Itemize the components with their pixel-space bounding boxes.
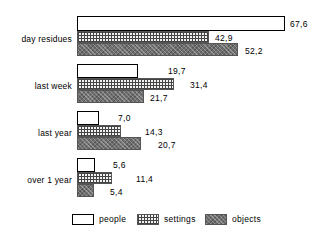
value-label-over-1-year-objects: 5,4 — [110, 187, 123, 197]
bar-day-residues-objects — [77, 43, 238, 56]
bar-day-residues-settings — [77, 31, 209, 43]
bar-last-week-settings — [77, 78, 174, 90]
bar-last-week-objects — [77, 90, 144, 103]
value-label-over-1-year-settings: 11,4 — [136, 174, 153, 184]
category-label-over-1-year: over 1 year — [0, 175, 72, 185]
legend-label-objects: objects — [232, 214, 261, 224]
value-label-day-residues-people: 67,6 — [290, 19, 308, 29]
value-label-last-week-objects: 21,7 — [150, 93, 168, 103]
bar-last-week-people — [77, 64, 138, 78]
bar-day-residues-people — [77, 16, 285, 31]
value-label-over-1-year-people: 5,6 — [113, 160, 126, 170]
legend-swatch-settings-icon — [137, 214, 159, 225]
bar-over-1-year-objects — [77, 184, 94, 197]
value-label-day-residues-objects: 52,2 — [245, 46, 263, 56]
value-label-last-year-settings: 14,3 — [145, 127, 163, 137]
legend-label-settings: settings — [164, 214, 196, 224]
bar-over-1-year-settings — [77, 172, 112, 184]
category-label-last-year: last year — [0, 128, 72, 138]
legend-item-settings: settings — [137, 212, 196, 226]
bar-last-year-settings — [77, 125, 121, 137]
legend-item-objects: objects — [205, 212, 261, 226]
category-label-day-residues: day residues — [0, 34, 72, 44]
legend-item-people: people — [72, 212, 126, 226]
chart-legend: people settings objects — [0, 212, 325, 234]
legend-swatch-objects-icon — [205, 214, 227, 225]
value-label-last-year-objects: 20,7 — [158, 140, 176, 150]
legend-swatch-people-icon — [72, 214, 94, 225]
legend-label-people: people — [99, 214, 126, 224]
value-label-last-week-people: 19,7 — [168, 66, 186, 76]
value-label-last-year-people: 7,0 — [118, 113, 131, 123]
bar-last-year-people — [77, 111, 99, 125]
value-label-last-week-settings: 31,4 — [190, 80, 208, 90]
bar-over-1-year-people — [77, 158, 95, 172]
bar-last-year-objects — [77, 137, 141, 150]
category-label-last-week: last week — [0, 81, 72, 91]
bar-chart: day residues 67,6 42,9 52,2 last week 19… — [0, 0, 325, 241]
value-label-day-residues-settings: 42,9 — [215, 33, 233, 43]
